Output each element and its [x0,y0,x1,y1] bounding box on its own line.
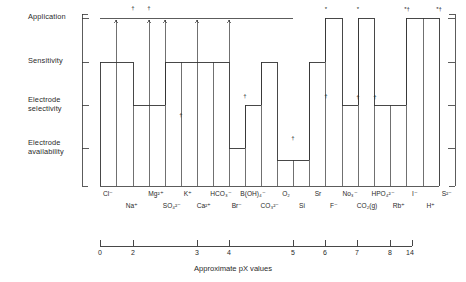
px-axis [100,240,412,246]
ion-label-text: Na⁺ [126,202,138,209]
px-tick-text: 5 [291,249,295,256]
step-outline [100,18,439,186]
px-tick-label: 5 [285,249,301,256]
top-marker-text: † [147,5,150,11]
top-marker: * [353,6,363,12]
px-tick-text: 0 [98,249,102,256]
left-axis-bracket [82,14,89,186]
px-axis-title: Approximate pX values [0,264,466,273]
ion-label-text: CO₃²⁻ [261,202,280,209]
ion-label-text: HPO₄²⁻ [371,190,394,197]
inline-marker-text: † [243,93,246,99]
inline-marker-text: † [356,94,359,100]
ion-electrode-step-chart: Application Sensitivity Electrode select… [0,0,466,282]
inline-marker: † [353,94,363,100]
ion-label: H⁺ [411,202,451,210]
ion-label-text: Ca²⁺ [197,202,212,209]
ion-label-text: No₃⁻ [342,190,357,197]
ion-label-text: Br⁻ [232,202,243,209]
inline-marker: † [321,93,331,99]
ion-label-text: O₂ [282,190,290,197]
px-tick-label: 8 [382,249,398,256]
px-tick-label: 4 [221,249,237,256]
inline-marker: † [370,94,380,100]
ion-label-text: SO₄²⁻ [163,202,181,209]
px-tick-label: 2 [125,249,141,256]
inline-marker: † [240,93,250,99]
top-marker-text: † [131,5,134,11]
ion-label: Cl⁻ [88,190,128,198]
px-tick-label: 3 [189,249,205,256]
top-marker-text: * [357,6,359,12]
px-tick-text: 14 [406,249,414,256]
ion-label-text: S²⁻ [442,190,453,197]
px-tick-label: 14 [402,249,418,256]
ion-label-text: K⁺ [184,190,192,197]
bar-dividers [116,18,423,186]
px-tick-label: 0 [92,249,108,256]
inline-marker-text: † [179,112,182,118]
column-rules [133,18,406,186]
ion-label-text: Mg²⁺ [148,190,163,197]
inline-marker-text: † [291,135,294,141]
ion-label-text: Sr [315,190,322,197]
ion-label: S²⁻ [427,190,466,198]
px-tick-label: 6 [317,249,333,256]
ion-label-text: H⁺ [427,202,436,209]
ion-label-text: I⁻ [412,190,418,197]
ion-label-text: HCO₃⁻ [210,190,231,197]
top-marker-text: * [325,6,327,12]
px-tick-text: 3 [195,249,199,256]
px-tick-text: 8 [388,249,392,256]
chart-svg [0,0,466,282]
top-marker-text: *† [436,6,442,12]
px-tick-text: 7 [355,249,359,256]
inline-marker: † [176,112,186,118]
top-marker-text: *† [404,6,410,12]
px-axis-title-text: Approximate pX values [194,264,272,273]
ion-label: Na⁺ [112,202,152,210]
inline-marker-text: † [373,94,376,100]
px-tick-label: 7 [349,249,365,256]
ion-label-text: F⁻ [330,202,338,209]
inline-marker: † [288,135,298,141]
top-marker: *† [432,6,446,12]
ion-label-text: Rb⁺ [393,202,405,209]
top-marker: *† [400,6,414,12]
px-tick-text: 6 [323,249,327,256]
top-marker: † [128,5,138,11]
px-tick-text: 4 [227,249,231,256]
top-marker: * [321,6,331,12]
ion-label-text: Si [299,202,305,209]
top-marker: † [144,5,154,11]
inline-marker-text: † [324,93,327,99]
ion-label-text: CO₂(g) [357,202,378,209]
ion-label-text: Cl⁻ [103,190,113,197]
px-tick-text: 2 [131,249,135,256]
ion-label-text: B(OH)₄⁻ [240,190,265,197]
right-axis-bracket [448,14,455,186]
